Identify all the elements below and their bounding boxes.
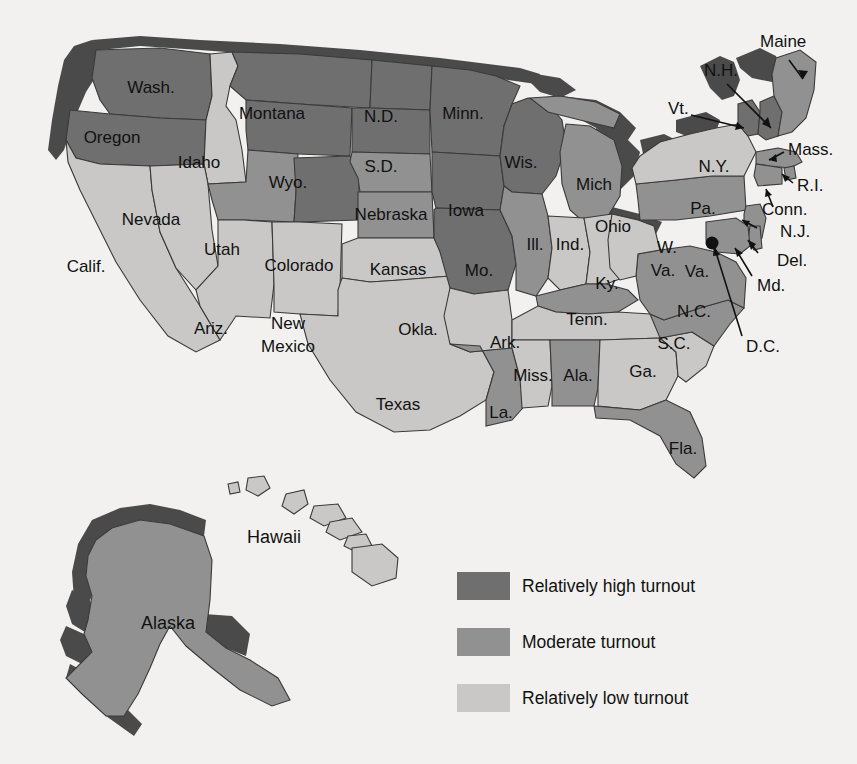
states-layer (60, 48, 816, 736)
state-NY[interactable] (632, 124, 756, 184)
label-ID: Idaho (178, 153, 221, 172)
state-MI[interactable] (560, 124, 622, 224)
callout-NH: N.H. (704, 61, 738, 80)
label-MT: Montana (239, 104, 306, 123)
label-AZ: Ariz. (194, 319, 228, 338)
callout-DC: D.C. (746, 337, 780, 356)
label-VA: Va. (685, 262, 709, 281)
label-NY: N.Y. (699, 157, 730, 176)
label-OR: Oregon (84, 128, 141, 147)
label-TX: Texas (376, 395, 420, 414)
label-NV: Nevada (122, 210, 181, 229)
state-HI-2[interactable] (246, 476, 270, 496)
callout-MA: Mass. (788, 140, 833, 159)
legend-swatch-moderate (457, 628, 510, 656)
callout-ME: Maine (760, 32, 806, 51)
callout-VT: Vt. (668, 99, 689, 118)
label-KY: Ky. (595, 274, 618, 293)
legend-label-low: Relatively low turnout (522, 688, 688, 708)
label-NM-1: New (271, 314, 306, 333)
label-GA: Ga. (629, 362, 656, 381)
label-WY: Wyo. (269, 173, 308, 192)
label-WV-1: W. (657, 238, 677, 257)
label-WI: Wis. (504, 153, 537, 172)
legend-label-moderate: Moderate turnout (522, 632, 655, 652)
dc-marker-dot (706, 237, 719, 250)
label-IN: Ind. (556, 235, 584, 254)
turnout-map-figure: Wash. Oregon Idaho Montana N.D. S.D. Min… (0, 0, 857, 764)
label-MS: Miss. (513, 366, 553, 385)
legend: Relatively high turnout Moderate turnout… (457, 572, 695, 712)
legend-swatch-high (457, 572, 510, 600)
label-MO: Mo. (465, 261, 493, 280)
label-MN: Minn. (442, 104, 484, 123)
state-HI-7[interactable] (352, 544, 398, 586)
callout-DE: Del. (777, 251, 807, 270)
label-OH: Ohio (595, 217, 631, 236)
label-CO: Colorado (265, 256, 334, 275)
label-SD: S.D. (364, 157, 397, 176)
state-HI-3[interactable] (282, 490, 308, 514)
label-AL: Ala. (563, 366, 592, 385)
label-CA: Calif. (67, 257, 106, 276)
label-PA: Pa. (690, 199, 716, 218)
callout-RI: R.I. (797, 176, 823, 195)
state-HI-1[interactable] (228, 482, 240, 494)
label-KS: Kansas (370, 260, 427, 279)
label-UT: Utah (204, 240, 240, 259)
label-LA: La. (489, 403, 513, 422)
label-NE: Nebraska (355, 205, 428, 224)
callout-CT: Conn. (762, 200, 807, 219)
label-AK: Alaska (141, 613, 196, 633)
legend-label-high: Relatively high turnout (522, 576, 695, 596)
label-OK: Okla. (398, 320, 438, 339)
state-ND[interactable] (370, 60, 432, 110)
label-IL: Ill. (527, 235, 544, 254)
label-NM-2: Mexico (261, 337, 315, 356)
label-AR: Ark. (490, 333, 520, 352)
label-FL: Fla. (669, 439, 697, 458)
state-MT[interactable] (230, 52, 372, 108)
legend-swatch-low (457, 684, 510, 712)
callout-MD: Md. (757, 276, 785, 295)
label-NC: N.C. (677, 302, 711, 321)
label-HI: Hawaii (247, 527, 301, 547)
label-IA: Iowa (448, 201, 484, 220)
label-MI: Mich (576, 175, 612, 194)
label-WA: Wash. (127, 78, 175, 97)
label-ND: N.D. (364, 107, 398, 126)
label-WV-2: Va. (651, 261, 675, 280)
us-map-svg: Wash. Oregon Idaho Montana N.D. S.D. Min… (0, 0, 857, 764)
callout-NJ: N.J. (780, 222, 810, 241)
state-CT[interactable] (754, 164, 782, 186)
label-TN: Tenn. (566, 310, 608, 329)
label-SC: S.C. (657, 334, 690, 353)
